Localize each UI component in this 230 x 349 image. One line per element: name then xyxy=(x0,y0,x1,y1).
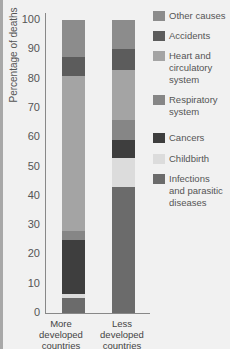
y-tick-label: 50 xyxy=(10,160,40,172)
bar-segment xyxy=(112,20,135,49)
bar-segment xyxy=(62,298,85,313)
legend-label: Cancers xyxy=(169,132,204,144)
x-label-less-developed: Less developed countries xyxy=(97,318,147,349)
bar-segment xyxy=(62,57,85,76)
y-tick-label: 40 xyxy=(10,189,40,201)
bar-segment xyxy=(112,120,135,141)
bar-less-developed xyxy=(112,0,135,349)
legend-item: Cancers xyxy=(153,132,204,144)
y-tick-label: 20 xyxy=(10,247,40,259)
legend-swatch-icon xyxy=(153,133,165,143)
legend-label: Childbirth xyxy=(169,153,209,165)
legend-item: Childbirth xyxy=(153,153,209,165)
y-tick-label: 30 xyxy=(10,218,40,230)
bar-segment xyxy=(62,231,85,240)
legend-label: Accidents xyxy=(169,30,210,42)
y-axis-title: Percentage of deaths xyxy=(6,0,20,170)
legend-swatch-icon xyxy=(153,174,165,184)
y-tick-label: 70 xyxy=(10,101,40,113)
legend-item: Respiratory system xyxy=(153,94,218,118)
y-tick-label: 100 xyxy=(10,13,40,25)
bar-segment xyxy=(62,294,85,298)
legend-item: Other causes xyxy=(153,10,226,22)
legend-item: Infections and parasitic diseases xyxy=(153,173,223,209)
y-axis-line xyxy=(45,13,46,314)
legend-label: Other causes xyxy=(169,10,226,22)
x-label-more-developed: More developed countries xyxy=(36,318,86,349)
bar-segment xyxy=(112,158,135,187)
legend-label: Infections and parasitic diseases xyxy=(169,173,223,209)
y-tick-label: 90 xyxy=(10,42,40,54)
legend-swatch-icon xyxy=(153,11,165,21)
bar-segment xyxy=(62,76,85,231)
legend-swatch-icon xyxy=(153,154,165,164)
legend-item: Accidents xyxy=(153,30,210,42)
legend-swatch-icon xyxy=(153,31,165,41)
bar-segment xyxy=(62,240,85,294)
legend-label: Respiratory system xyxy=(169,94,218,118)
bar-segment xyxy=(112,140,135,158)
y-tick-label: 80 xyxy=(10,72,40,84)
y-tick-label: 0 xyxy=(10,306,40,318)
y-tick-label: 10 xyxy=(10,277,40,289)
legend-swatch-icon xyxy=(153,51,165,61)
bar-more-developed xyxy=(62,0,85,349)
y-tick-label: 60 xyxy=(10,130,40,142)
bar-segment xyxy=(112,49,135,70)
page-edge xyxy=(0,0,3,349)
legend-label: Heart and circulatory system xyxy=(169,50,212,86)
bar-segment xyxy=(112,187,135,313)
legend-item: Heart and circulatory system xyxy=(153,50,212,86)
bar-segment xyxy=(112,70,135,120)
bar-segment xyxy=(62,20,85,57)
legend-swatch-icon xyxy=(153,95,165,105)
